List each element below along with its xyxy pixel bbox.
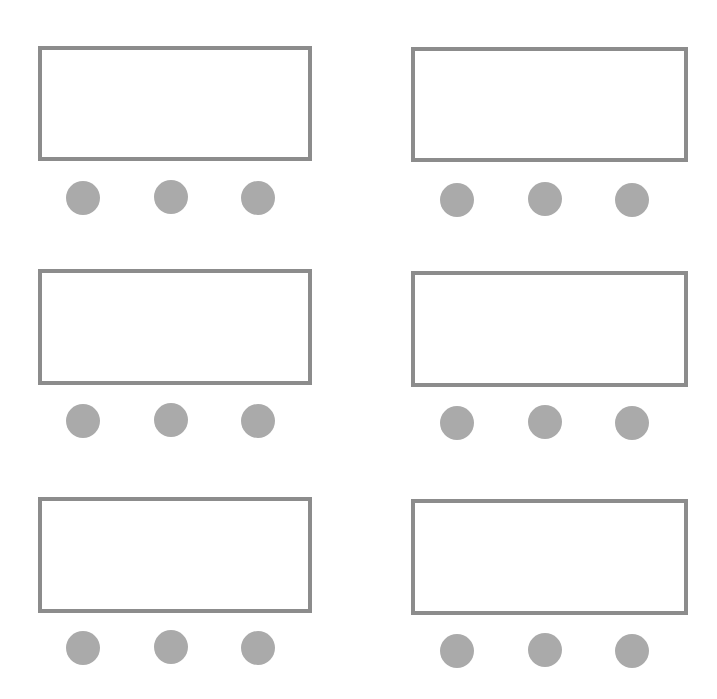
card-box[interactable] <box>411 271 688 387</box>
dot-indicator[interactable] <box>66 181 100 215</box>
dot-indicator[interactable] <box>528 182 562 216</box>
dot-indicator[interactable] <box>615 634 649 668</box>
card-box[interactable] <box>411 47 688 162</box>
card-box[interactable] <box>38 497 312 613</box>
card-box[interactable] <box>38 46 312 161</box>
dot-indicator[interactable] <box>440 406 474 440</box>
dot-indicator[interactable] <box>66 404 100 438</box>
card-unit-3 <box>38 269 314 444</box>
dot-indicator[interactable] <box>615 183 649 217</box>
card-box[interactable] <box>411 499 688 615</box>
dot-indicator[interactable] <box>241 631 275 665</box>
dot-indicator[interactable] <box>241 181 275 215</box>
dot-indicator[interactable] <box>528 633 562 667</box>
dot-indicator[interactable] <box>66 631 100 665</box>
dot-indicator[interactable] <box>440 183 474 217</box>
dot-indicator[interactable] <box>154 403 188 437</box>
dot-indicator[interactable] <box>528 405 562 439</box>
card-unit-5 <box>38 497 314 672</box>
dot-indicator[interactable] <box>241 404 275 438</box>
card-unit-6 <box>411 499 687 674</box>
dot-indicator[interactable] <box>154 180 188 214</box>
dot-indicator[interactable] <box>440 634 474 668</box>
card-unit-4 <box>411 271 687 446</box>
card-box[interactable] <box>38 269 312 385</box>
card-unit-1 <box>38 46 314 221</box>
dot-indicator[interactable] <box>615 406 649 440</box>
diagram-canvas <box>0 0 717 699</box>
card-unit-2 <box>411 47 687 222</box>
dot-indicator[interactable] <box>154 630 188 664</box>
